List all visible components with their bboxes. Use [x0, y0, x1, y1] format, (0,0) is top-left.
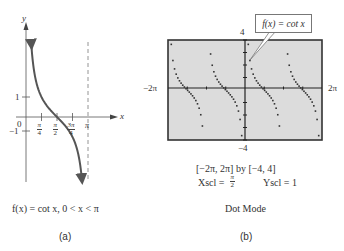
- x-axis-label: x: [120, 112, 124, 121]
- mode-label: Dot Mode: [225, 204, 266, 214]
- y-max-label: 4: [240, 28, 245, 37]
- y-axis-arrow-icon: [24, 22, 29, 30]
- panel-b-letter: (b): [240, 231, 252, 242]
- y-min-label: −4: [238, 144, 248, 153]
- y-tick-label-neg1: −1: [9, 127, 19, 136]
- x-max-label: 2π: [328, 84, 337, 93]
- x-tick-label-pi: π: [85, 122, 89, 130]
- panel-a-caption: f(x) = cot x, 0 < x < π: [12, 204, 99, 214]
- x-axis-arrow-icon: [110, 115, 118, 120]
- panel-a-letter: (a): [59, 231, 71, 242]
- function-callout: f(x) = cot x: [255, 14, 312, 33]
- panel-a-graph: [16, 22, 118, 182]
- window-settings: [−2π, 2π] by [−4, 4]: [196, 164, 276, 174]
- y-tick-label-1: 1: [15, 93, 20, 102]
- x-tick-label-pi2: π 2: [53, 122, 58, 137]
- xscl-label: Xscl =: [198, 178, 224, 188]
- xscl-fraction: π 2: [230, 174, 235, 189]
- x-tick-label-3pi4: 3π 4: [67, 122, 75, 137]
- x-tick-label-pi4: π 4: [37, 122, 42, 137]
- y-axis-label: y: [22, 14, 26, 23]
- x-min-label: −2π: [143, 84, 157, 93]
- yscl-label: Yscl = 1: [263, 178, 297, 188]
- panel-b-graph-screen: [168, 31, 322, 140]
- cot-curve: [31, 45, 82, 179]
